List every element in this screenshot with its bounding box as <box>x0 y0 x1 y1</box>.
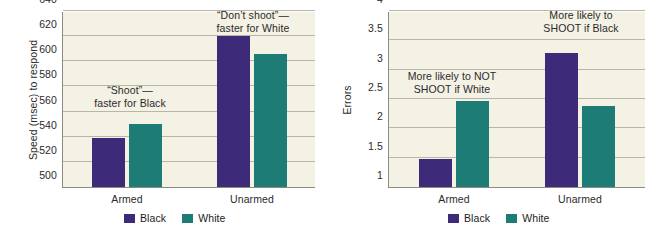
y-tick-label: 640 <box>39 0 63 5</box>
bar-black-unarmed <box>217 36 250 187</box>
x-tick-label-armed: Armed <box>438 193 469 205</box>
x-tick-label-unarmed: Unarmed <box>558 193 602 205</box>
y-tick-label: 4 <box>377 0 389 5</box>
y-tick-label: 3.5 <box>368 22 389 34</box>
y-tick-label: 2 <box>377 110 389 122</box>
y-tick-label: 520 <box>39 144 63 156</box>
annotation-line-1: “Don’t shoot”— <box>193 9 313 22</box>
annotation-line-2: SHOOT if Black <box>521 22 641 35</box>
plot-area-errors: 4 3.5 3 2.5 2 1.5 1 More likely to NOT S… <box>388 12 645 188</box>
bar-white-armed <box>129 124 162 187</box>
y-tick-label: 620 <box>39 18 63 30</box>
figure-container: Speed (msec) to respond 640 620 600 580 … <box>0 0 650 237</box>
annotation-line-1: More likely to <box>521 9 641 22</box>
bar-black-unarmed <box>545 53 578 187</box>
annotation-line-2: faster for White <box>193 22 313 35</box>
legend-swatch-white-icon <box>506 214 517 223</box>
legend-label-white: White <box>198 212 225 224</box>
legend-label-black: Black <box>464 212 490 224</box>
y-tick-label: 600 <box>39 43 63 55</box>
y-tick-label: 1.5 <box>368 140 389 152</box>
annotation-shoot-faster-black: “Shoot”— faster for Black <box>75 84 185 110</box>
x-tick-label-unarmed: Unarmed <box>230 193 274 205</box>
annotation-line-2: SHOOT if White <box>387 83 517 96</box>
gridline <box>389 39 645 40</box>
annotation-not-shoot-white: More likely to NOT SHOOT if White <box>387 70 517 96</box>
chart-panel-errors: Errors 4 3.5 3 2.5 2 1.5 1 Mo <box>330 0 650 237</box>
legend-errors: Black White <box>448 212 550 224</box>
bar-white-armed <box>456 101 489 187</box>
annotation-dont-shoot-faster-white: “Don’t shoot”— faster for White <box>193 9 313 35</box>
legend-swatch-white-icon <box>182 214 193 223</box>
gridline <box>389 98 645 99</box>
bar-black-armed <box>419 159 452 187</box>
plot-area-speed: 640 620 600 580 560 540 520 500 “Shoot”— <box>62 12 315 188</box>
annotation-line-1: “Shoot”— <box>75 84 185 97</box>
y-tick-label: 2.5 <box>368 81 389 93</box>
legend-label-white: White <box>522 212 549 224</box>
gridline <box>63 35 315 36</box>
annotation-line-1: More likely to NOT <box>387 70 517 83</box>
y-tick-label: 560 <box>39 94 63 106</box>
bar-black-armed <box>92 138 125 187</box>
y-tick-label: 500 <box>39 169 63 181</box>
legend-speed: Black White <box>124 212 226 224</box>
y-tick-label: 1 <box>377 169 389 181</box>
y-tick-label: 540 <box>39 119 63 131</box>
bar-white-unarmed <box>254 54 287 187</box>
x-tick-label-armed: Armed <box>111 193 142 205</box>
annotation-line-2: faster for Black <box>75 97 185 110</box>
legend-item-black: Black <box>448 212 490 224</box>
legend-swatch-black-icon <box>448 214 459 223</box>
legend-item-white: White <box>506 212 549 224</box>
legend-item-black: Black <box>124 212 166 224</box>
legend-swatch-black-icon <box>124 214 135 223</box>
legend-label-black: Black <box>140 212 166 224</box>
y-axis-title-errors: Errors <box>341 55 353 145</box>
chart-panel-speed: Speed (msec) to respond 640 620 600 580 … <box>0 0 330 237</box>
y-axis-title-speed: Speed (msec) to respond <box>27 20 39 180</box>
annotation-shoot-black: More likely to SHOOT if Black <box>521 9 641 35</box>
legend-item-white: White <box>182 212 225 224</box>
bar-white-unarmed <box>582 106 615 188</box>
y-tick-label: 580 <box>39 68 63 80</box>
y-tick-label: 3 <box>377 52 389 64</box>
